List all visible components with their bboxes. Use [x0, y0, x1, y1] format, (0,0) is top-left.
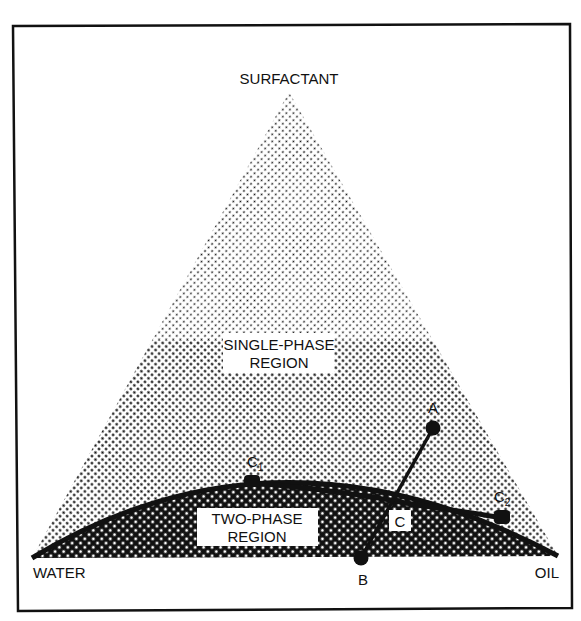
- two-phase-label-line2: REGION: [227, 528, 286, 545]
- point-b-label: B: [358, 571, 368, 588]
- point-c1-marker: [244, 475, 260, 487]
- point-b-marker: [354, 551, 369, 566]
- single-phase-label-line2: REGION: [249, 354, 308, 371]
- point-c2-label-base: C: [494, 488, 505, 505]
- two-phase-label-line1: TWO-PHASE: [212, 510, 303, 527]
- point-a-marker: [426, 421, 441, 436]
- point-c-label: C: [395, 513, 406, 530]
- single-phase-label-line1: SINGLE-PHASE: [224, 336, 335, 353]
- oil-label: OIL: [535, 564, 559, 581]
- surfactant-label: SURFACTANT: [240, 70, 339, 87]
- point-c2-marker: [494, 510, 510, 524]
- point-c2-label-sub: 2: [505, 497, 511, 508]
- point-a-label: A: [428, 399, 438, 416]
- phase-diagram: SURFACTANT WATER OIL SINGLE-PHASE REGION…: [0, 0, 581, 621]
- point-c1-label-base: C: [247, 453, 258, 470]
- point-c1-label-sub: 1: [258, 462, 264, 473]
- water-label: WATER: [33, 564, 86, 581]
